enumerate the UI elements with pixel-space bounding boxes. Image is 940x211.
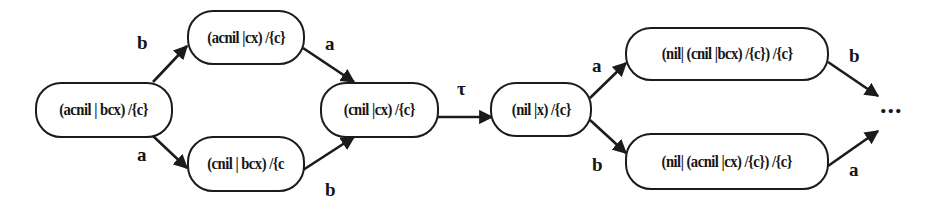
state-label: (nil |x) /{c} (511, 100, 570, 120)
edge-n1-n3 (153, 136, 187, 168)
state-label: (nil| (cnil |bcx) /{c}) /{c} (661, 44, 792, 64)
state-node: (acnil |cx) /{c} (187, 10, 305, 65)
continuation-ellipsis: ... (880, 92, 903, 118)
transition-diagram: (acnil | bcx) /{c} (acnil |cx) /{c} (cni… (0, 0, 940, 211)
edge-n6-cont (828, 62, 878, 96)
edge-label: b (325, 180, 336, 199)
edge-label: τ (457, 79, 466, 98)
state-label: (acnil |cx) /{c} (207, 28, 285, 48)
state-label: (cnil |cx) /{c} (344, 100, 415, 120)
edge-label: b (137, 33, 148, 52)
state-node: (nil| (cnil |bcx) /{c}) /{c} (625, 27, 829, 81)
state-node: (cnil |cx) /{c} (320, 82, 439, 138)
state-node: (nil |x) /{c} (490, 82, 592, 137)
state-label: (acnil | bcx) /{c} (60, 100, 149, 120)
edge-label: b (592, 155, 603, 174)
edge-label: a (137, 145, 147, 164)
edge-n3-n4 (303, 137, 354, 170)
state-node: (nil| (acnil |cx) /{c}) /{c} (625, 133, 829, 190)
state-label: (cnil | bcx) /{c (208, 154, 285, 174)
edge-label: a (592, 56, 602, 75)
edge-label: a (325, 34, 335, 53)
edge-label: b (849, 46, 860, 65)
state-label: (nil| (acnil |cx) /{c}) /{c} (662, 152, 792, 172)
edge-n5-n7 (590, 120, 626, 153)
edge-label: a (849, 160, 859, 179)
state-node: (acnil | bcx) /{c} (35, 82, 173, 138)
edge-n1-n2 (153, 46, 187, 82)
state-node: (cnil | bcx) /{c (187, 136, 305, 192)
